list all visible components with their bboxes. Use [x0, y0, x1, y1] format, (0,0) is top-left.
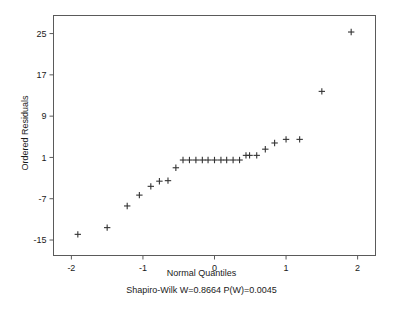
qq-plot-figure: -2-1012-15-7191725 Ordered Residuals Nor… — [0, 0, 403, 311]
data-point — [186, 157, 192, 163]
data-point — [254, 152, 260, 158]
data-point — [75, 231, 81, 237]
data-point — [283, 136, 289, 142]
data-point — [296, 136, 302, 142]
data-point — [180, 157, 186, 163]
data-point — [236, 157, 242, 163]
y-tick-label: 25 — [36, 29, 46, 39]
data-point — [124, 203, 130, 209]
data-point — [246, 152, 252, 158]
x-axis-title: Normal Quantiles — [0, 268, 403, 278]
y-axis-title: Ordered Residuals — [20, 53, 30, 213]
data-point — [156, 178, 162, 184]
data-point-group — [75, 29, 355, 238]
y-tick-label: 9 — [41, 111, 46, 121]
data-point — [199, 157, 205, 163]
data-point — [104, 224, 110, 230]
qq-plot-canvas: -2-1012-15-7191725 — [0, 0, 403, 311]
data-point — [319, 88, 325, 94]
y-tick-label: -7 — [38, 194, 46, 204]
data-point — [211, 157, 217, 163]
data-point — [218, 157, 224, 163]
data-point — [348, 29, 354, 35]
data-point — [173, 165, 179, 171]
y-tick-label: 1 — [41, 153, 46, 163]
data-point — [148, 183, 154, 189]
data-point — [223, 157, 229, 163]
data-point — [136, 192, 142, 198]
y-tick-label: 17 — [36, 70, 46, 80]
data-point — [205, 157, 211, 163]
data-point — [230, 157, 236, 163]
data-point — [193, 157, 199, 163]
data-point — [271, 140, 277, 146]
data-point — [165, 177, 171, 183]
shapiro-wilk-annotation: Shapiro-Wilk W=0.8664 P(W)=0.0045 — [0, 285, 403, 295]
y-tick-label: -15 — [33, 235, 46, 245]
plot-frame — [54, 16, 376, 256]
data-point — [262, 146, 268, 152]
